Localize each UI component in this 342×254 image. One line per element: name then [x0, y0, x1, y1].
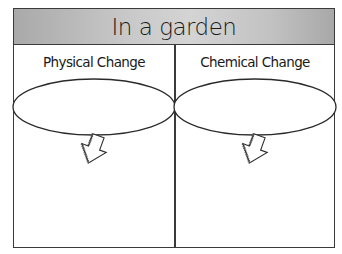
down-arrow-icon — [76, 131, 110, 167]
down-arrow-icon — [237, 131, 271, 167]
diagram-shapes — [0, 0, 342, 254]
oval-chemical[interactable] — [174, 79, 336, 135]
oval-physical[interactable] — [13, 79, 175, 135]
